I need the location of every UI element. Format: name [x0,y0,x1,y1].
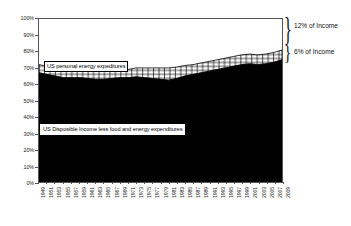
x-axis-tick-label: 1971 [130,187,136,198]
y-axis-tick-label: 90% [24,32,35,38]
x-axis-tick-mark [120,182,121,184]
x-axis-tick-mark [144,182,145,184]
x-axis-tick-label: 1987 [195,187,201,198]
y-axis-tick-label: 100% [21,15,34,21]
y-axis-tick-label: 30% [24,131,35,137]
x-axis-tick-label: 1965 [105,187,111,198]
x-axis-tick-label: 2005 [269,187,275,198]
x-axis-tick-mark [169,182,170,184]
x-axis-tick-label: 1979 [163,187,169,198]
energy-expenditure-area-chart: 0%10%20%30%40%50%60%70%80%90%100% US per… [0,0,351,226]
x-axis-tick-mark [201,182,202,184]
y-axis-tick-label: 20% [24,147,35,153]
x-axis-tick-label: 1975 [146,187,152,198]
x-axis-tick-mark [63,182,64,184]
x-axis: 1949195119531955195719591961196319651967… [0,184,351,226]
x-axis-tick-mark [250,182,251,184]
x-axis-tick-mark [283,182,284,184]
y-axis-tick-label: 80% [24,48,35,54]
x-axis-tick-label: 1967 [114,187,120,198]
x-axis-tick-mark [79,182,80,184]
x-axis-tick-mark [95,182,96,184]
x-axis-tick-mark [136,182,137,184]
x-axis-tick-label: 1959 [81,187,87,198]
x-axis-tick-mark [267,182,268,184]
x-axis-tick-mark [242,182,243,184]
x-axis-tick-mark [177,182,178,184]
x-axis-tick-label: 1963 [97,187,103,198]
y-axis-tick-label: 10% [24,164,35,170]
x-axis-tick-label: 2001 [252,187,258,198]
x-axis-tick-label: 1989 [203,187,209,198]
y-axis-tick-label: 50% [24,98,35,104]
x-axis-tick-mark [185,182,186,184]
x-axis-tick-label: 1997 [236,187,242,198]
x-axis-tick-mark [234,182,235,184]
x-axis-tick-mark [38,182,39,184]
x-axis-tick-label: 1999 [244,187,250,198]
x-axis-tick-mark [226,182,227,184]
x-axis-tick-mark [128,182,129,184]
plot-area [38,18,283,183]
x-axis-tick-mark [259,182,260,184]
x-axis-tick-label: 1977 [154,187,160,198]
x-axis-tick-label: 1995 [228,187,234,198]
x-axis-tick-label: 1991 [212,187,218,198]
x-axis-tick-label: 1969 [122,187,128,198]
x-axis-tick-label: 2003 [261,187,267,198]
x-axis-tick-label: 1957 [73,187,79,198]
x-axis-tick-mark [218,182,219,184]
annotation-12-percent-of-income: 12% of Income [294,22,338,29]
y-axis-tick-label: 60% [24,81,35,87]
x-axis-tick-label: 1993 [220,187,226,198]
energy-expenditures-callout: US personal energy expeditures [44,61,128,72]
x-axis-tick-label: 1955 [65,187,71,198]
x-axis-tick-mark [46,182,47,184]
x-axis-tick-mark [103,182,104,184]
x-axis-tick-mark [161,182,162,184]
brace-6-percent-icon: } [284,42,291,63]
x-axis-tick-label: 1985 [187,187,193,198]
x-axis-tick-label: 2007 [277,187,283,198]
x-axis-tick-mark [112,182,113,184]
x-axis-tick-label: 1981 [171,187,177,198]
x-axis-tick-label: 1953 [56,187,62,198]
plot-svg [39,19,282,182]
x-axis-tick-label: 1951 [48,187,54,198]
annotation-6-percent-of-income: 6% of Income [294,48,334,55]
y-axis-tick-label: 70% [24,65,35,71]
y-axis-tick-label: 40% [24,114,35,120]
x-axis-tick-mark [152,182,153,184]
x-axis-tick-mark [87,182,88,184]
x-axis-tick-label: 1973 [138,187,144,198]
disposable-income-callout: US Disposible Income less food and energ… [40,124,185,135]
x-axis-tick-mark [275,182,276,184]
x-axis-tick-label: 1983 [179,187,185,198]
x-axis-tick-mark [71,182,72,184]
x-axis-tick-mark [193,182,194,184]
x-axis-tick-mark [210,182,211,184]
x-axis-tick-label: 1949 [40,187,46,198]
x-axis-tick-label: 2009 [285,187,291,198]
x-axis-tick-label: 1961 [89,187,95,198]
x-axis-tick-mark [54,182,55,184]
